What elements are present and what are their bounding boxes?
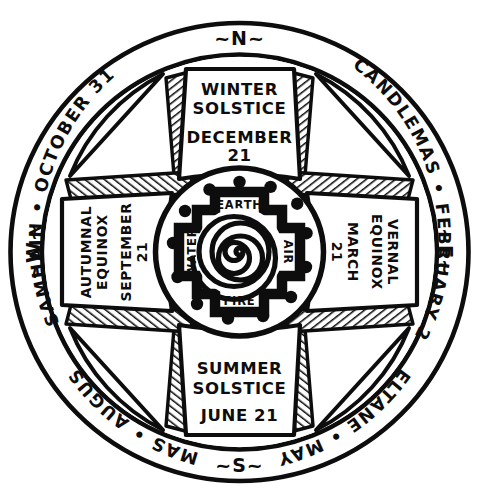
summer-solstice-title-line1: SUMMER [197,359,283,378]
compass-point-east: ~E~ [435,228,457,276]
panel-summer-solstice[interactable]: SUMMER SOLSTICE JUNE 21 [179,325,300,435]
vernal-equinox-title-line2: EQUINOX [369,214,385,290]
hub-dot [291,198,303,210]
wheel-of-the-year-artwork: WINTER SOLSTICE DECEMBER 21 SUMMER SOLST… [0,0,479,504]
winter-solstice-date-line1: DECEMBER [186,128,292,147]
wheel-diagram: WINTER SOLSTICE DECEMBER 21 SUMMER SOLST… [0,0,479,504]
hub-dot [179,205,191,217]
winter-solstice-date-line2: 21 [227,146,251,165]
panel-winter-solstice[interactable]: WINTER SOLSTICE DECEMBER 21 [179,69,300,179]
hub-dot [233,176,245,188]
vernal-equinox-date-line1: MARCH [345,222,361,282]
compass-point-north: ~N~ [214,27,265,49]
compass-point-south: ~S~ [215,454,264,476]
compass-point-west: ~W~ [22,224,44,280]
summer-solstice-date-line1: JUNE 21 [200,406,279,425]
hub-dot [191,298,203,310]
winter-solstice-title-line1: WINTER [201,80,278,99]
vernal-equinox-date-line2: 21 [329,242,345,263]
autumnal-equinox-date-line1: SEPTEMBER [118,203,134,302]
autumnal-equinox-title-line2: EQUINOX [94,214,110,290]
winter-solstice-title-line2: SOLSTICE [193,99,287,118]
autumnal-equinox-date-line2: 21 [134,242,150,263]
vernal-equinox-title-line1: VERNAL [385,219,401,285]
autumnal-equinox-title-line1: AUTUMNAL [78,206,94,298]
summer-solstice-title-line2: SOLSTICE [193,379,287,398]
